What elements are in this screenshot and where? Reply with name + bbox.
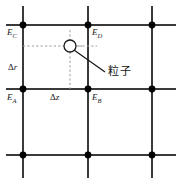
grid-node-middle-left — [20, 86, 27, 93]
diagram-canvas — [0, 0, 181, 183]
label-node-a-subscript: A — [13, 97, 17, 104]
label-node-a: EA — [7, 93, 16, 104]
grid-node-bottom-right — [149, 152, 156, 159]
label-node-d-subscript: D — [98, 32, 103, 39]
grid-node-middle-center — [85, 86, 92, 93]
label-node-b-subscript: B — [98, 97, 102, 104]
particle-marker — [64, 40, 76, 52]
grid-node-top-left — [20, 22, 27, 29]
label-delta-z: Δz — [50, 93, 59, 102]
grid-node-bottom-center — [85, 152, 92, 159]
label-node-c: EC — [7, 28, 17, 39]
label-node-d: ED — [92, 28, 102, 39]
label-node-c-subscript: C — [13, 32, 17, 39]
grid-node-top-center — [85, 22, 92, 29]
label-delta-r: Δr — [8, 63, 17, 72]
grid-node-bottom-left — [20, 152, 27, 159]
label-delta-z-variable: z — [56, 92, 60, 102]
construction-dashed-lines — [23, 30, 97, 89]
label-delta-r-variable: r — [14, 62, 18, 72]
particle-leader-line — [74, 50, 105, 72]
grid-node-top-right — [149, 22, 156, 29]
label-node-b: EB — [92, 93, 101, 104]
label-particle: 粒子 — [108, 66, 131, 77]
grid-node-middle-right — [149, 86, 156, 93]
grid-particle-diagram: EC ED EA EB Δr Δz 粒子 — [0, 0, 181, 183]
